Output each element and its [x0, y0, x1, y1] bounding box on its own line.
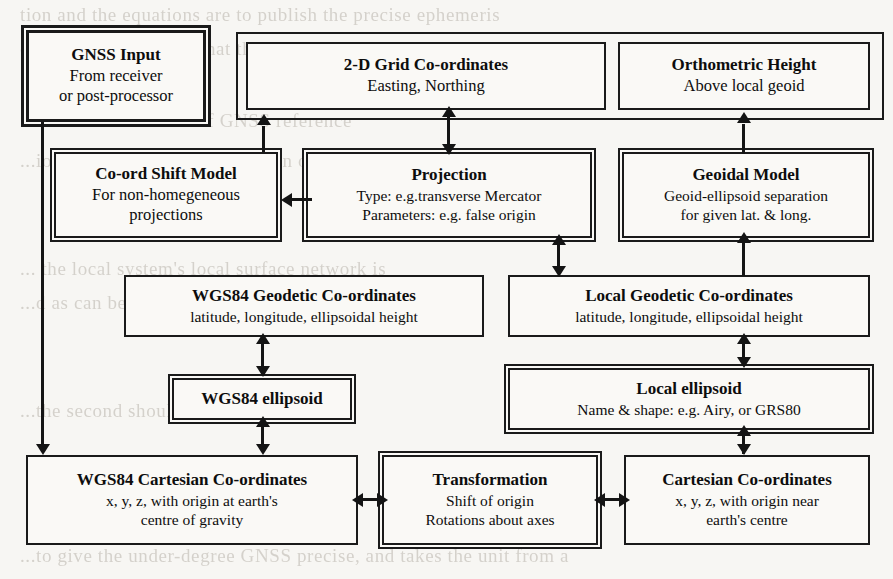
- node-line: x, y, z, with origin near: [675, 491, 819, 510]
- connector-local-geodetic-ellipsoid: [742, 342, 745, 364]
- arrowhead-left: [281, 193, 292, 207]
- connector-wgs84cartesian-transformation: [360, 498, 380, 501]
- node-line: centre of gravity: [141, 510, 243, 529]
- connector-projection-grid: [447, 116, 450, 152]
- node-gnss-input[interactable]: GNSS Input From receiver or post-process…: [26, 30, 206, 122]
- node-geoidal-model[interactable]: Geoidal Model Geoid-ellipsoid separation…: [622, 152, 870, 238]
- node-line: Parameters: e.g. false origin: [362, 205, 535, 224]
- node-line: Shift of origin: [446, 491, 534, 510]
- node-wgs84-cartesian-coordinates[interactable]: WGS84 Cartesian Co-ordinates x, y, z, wi…: [26, 455, 358, 545]
- node-title: WGS84 ellipsoid: [201, 389, 322, 410]
- node-line: x, y, z, with origin at earth's: [106, 491, 278, 510]
- node-title: WGS84 Cartesian Co-ordinates: [77, 470, 307, 491]
- node-line: for given lat. & long.: [681, 205, 812, 224]
- node-line: Geoid-ellipsoid separation: [664, 186, 828, 205]
- connector-geoidal-to-orthometric: [742, 124, 745, 154]
- node-line: Above local geoid: [684, 76, 805, 96]
- node-projection[interactable]: Projection Type: e.g.transverse Mercator…: [306, 152, 592, 238]
- arrowhead-down: [36, 444, 50, 455]
- node-line: Rotations about axes: [425, 510, 554, 529]
- background-text-line: ...to give the under-degree GNSS precise…: [20, 545, 569, 567]
- node-title: Projection: [411, 165, 486, 186]
- node-line: latitude, longitude, ellipsoidal height: [575, 307, 803, 326]
- arrowhead-down: [737, 357, 751, 368]
- background-text-line: tion and the equations are to publish th…: [20, 4, 500, 26]
- connector-local-ellipsoid-cartesian: [742, 434, 745, 454]
- connector-gnss-to-wgs84-cartesian: [41, 122, 44, 444]
- node-2d-grid-coordinates[interactable]: 2-D Grid Co-ordinates Easting, Northing: [246, 42, 606, 110]
- node-title: Local Geodetic Co-ordinates: [585, 286, 793, 307]
- connector-transformation-cartesian: [602, 498, 622, 501]
- arrowhead-down: [256, 444, 270, 455]
- node-transformation[interactable]: Transformation Shift of origin Rotations…: [382, 455, 598, 545]
- node-title: Transformation: [433, 470, 548, 491]
- node-line: From receiver: [70, 66, 163, 86]
- diagram-page: tion and the equations are to publish th…: [0, 0, 893, 579]
- node-line: Type: e.g.transverse Mercator: [357, 186, 542, 205]
- connector-wgs84-geodetic-ellipsoid: [261, 342, 264, 374]
- connector-projection-local-geodetic: [557, 244, 560, 274]
- node-title: 2-D Grid Co-ordinates: [344, 55, 508, 76]
- arrowhead-down: [256, 366, 270, 377]
- node-wgs84-geodetic-coordinates[interactable]: WGS84 Geodetic Co-ordinates latitude, lo…: [124, 275, 484, 337]
- node-line: latitude, longitude, ellipsoidal height: [190, 307, 418, 326]
- node-line: Name & shape: e.g. Airy, or GRS80: [577, 400, 800, 419]
- connector-wgs84-ellipsoid-cartesian: [261, 425, 264, 451]
- node-wgs84-ellipsoid[interactable]: WGS84 ellipsoid: [172, 378, 352, 420]
- node-orthometric-height[interactable]: Orthometric Height Above local geoid: [618, 42, 870, 110]
- node-line: projections: [129, 205, 202, 225]
- node-coord-shift-model[interactable]: Co-ord Shift Model For non-homegeneous p…: [54, 152, 278, 238]
- node-title: Local ellipsoid: [636, 379, 741, 400]
- arrowhead-down: [737, 444, 751, 455]
- node-title: Geoidal Model: [692, 165, 799, 186]
- node-cartesian-coordinates[interactable]: Cartesian Co-ordinates x, y, z, with ori…: [624, 455, 870, 545]
- node-local-geodetic-coordinates[interactable]: Local Geodetic Co-ordinates latitude, lo…: [508, 275, 870, 337]
- connector-shift-to-grid: [262, 126, 265, 152]
- connector-local-geodetic-to-geoidal: [742, 242, 745, 276]
- node-title: Orthometric Height: [672, 55, 817, 76]
- node-title: GNSS Input: [71, 45, 160, 66]
- node-title: WGS84 Geodetic Co-ordinates: [192, 286, 416, 307]
- node-local-ellipsoid[interactable]: Local ellipsoid Name & shape: e.g. Airy,…: [508, 368, 870, 430]
- node-title: Co-ord Shift Model: [95, 164, 237, 185]
- node-title: Cartesian Co-ordinates: [662, 470, 832, 491]
- node-line: Easting, Northing: [367, 76, 484, 96]
- node-line: or post-processor: [59, 86, 173, 106]
- node-line: earth's centre: [706, 510, 788, 529]
- node-line: For non-homegeneous: [92, 185, 240, 205]
